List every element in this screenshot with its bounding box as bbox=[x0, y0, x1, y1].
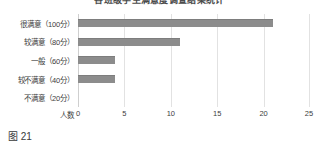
bar bbox=[78, 38, 180, 46]
bar bbox=[78, 56, 115, 64]
figure-caption: 图 21 bbox=[8, 128, 32, 143]
category-label: 不满意（20分） bbox=[0, 88, 74, 107]
category-label: 较不满意（40分） bbox=[0, 70, 74, 89]
category-label: 较满意（80分） bbox=[0, 33, 74, 52]
bar-row bbox=[78, 88, 310, 107]
xtick-label: 25 bbox=[305, 109, 313, 118]
xtick-label: 5 bbox=[122, 109, 126, 118]
chart-title: 各班级学生满意度调查结果统计 bbox=[0, 0, 319, 6]
xtick-label: 10 bbox=[167, 109, 175, 118]
bar-row bbox=[78, 70, 310, 89]
bar-row bbox=[78, 33, 310, 52]
xtick-label: 0 bbox=[76, 109, 80, 118]
xtick-label: 20 bbox=[259, 109, 267, 118]
bar bbox=[78, 75, 115, 83]
category-label: 很满意（100分） bbox=[0, 14, 74, 33]
bar bbox=[78, 19, 273, 27]
plot-area bbox=[78, 14, 310, 107]
chart-title-strip: 各班级学生满意度调查结果统计 bbox=[0, 0, 319, 9]
category-axis-labels: 很满意（100分） 较满意（80分） 一般（60分） 较不满意（40分） 不满意… bbox=[0, 14, 74, 107]
bar-row bbox=[78, 14, 310, 33]
bar-series bbox=[78, 14, 310, 107]
value-axis: 人数 0 5 10 15 20 25 bbox=[0, 107, 319, 121]
category-label: 一般（60分） bbox=[0, 51, 74, 70]
axis-name-label: 人数 bbox=[0, 109, 74, 120]
bar-row bbox=[78, 51, 310, 70]
xtick-label: 15 bbox=[213, 109, 221, 118]
bar-chart: 很满意（100分） 较满意（80分） 一般（60分） 较不满意（40分） 不满意… bbox=[0, 9, 319, 121]
